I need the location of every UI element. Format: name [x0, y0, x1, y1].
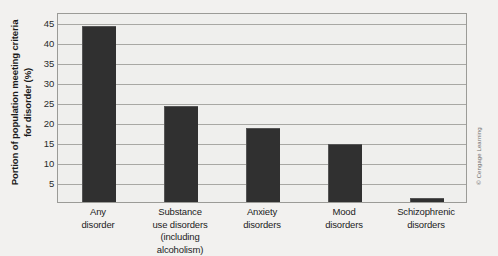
bar [246, 128, 280, 202]
y-tick-label-40: 40 [30, 38, 54, 49]
y-tick-label-5: 5 [30, 178, 54, 189]
x-tick-label-line: disorders [303, 219, 385, 232]
y-tick-label-25: 25 [30, 98, 54, 109]
x-tick-label: Mooddisorders [303, 206, 385, 231]
credit-text: © Cengage Learning [476, 127, 482, 184]
x-tick-label-line: use disorders [139, 219, 221, 232]
y-axis-title-line-1: Portion of population meeting criteria [10, 20, 23, 186]
x-tick-label-line: Mood [303, 206, 385, 219]
bar [164, 106, 198, 202]
x-tick-label-line: disorders [385, 219, 467, 232]
x-tick-label: Schizophrenicdisorders [385, 206, 467, 231]
plot-area [57, 13, 467, 203]
bar [328, 144, 362, 202]
y-axis-tick-labels: 51015202530354045 [30, 13, 54, 203]
x-axis-tick-labels: AnydisorderSubstanceuse disorders(includ… [57, 206, 467, 252]
x-tick-label-line: disorders [221, 219, 303, 232]
x-tick-label-line: disorder [57, 219, 139, 232]
x-tick-label-line: Schizophrenic [385, 206, 467, 219]
y-tick-label-15: 15 [30, 138, 54, 149]
bar [410, 198, 444, 202]
x-tick-label-line: Anxiety [221, 206, 303, 219]
y-tick-label-35: 35 [30, 58, 54, 69]
credit-notice: © Cengage Learning [472, 108, 486, 204]
y-tick-label-20: 20 [30, 118, 54, 129]
x-tick-label: Anydisorder [57, 206, 139, 231]
x-tick-label: Substanceuse disorders(including alcohol… [139, 206, 221, 256]
x-tick-label-line: (including alcoholism) [139, 231, 221, 256]
y-tick-label-45: 45 [30, 18, 54, 29]
x-tick-label-line: Substance [139, 206, 221, 219]
x-tick-label-line: Any [57, 206, 139, 219]
y-tick-label-30: 30 [30, 78, 54, 89]
x-tick-label: Anxietydisorders [221, 206, 303, 231]
bars-group [58, 14, 466, 202]
bar [82, 26, 116, 202]
y-tick-label-10: 10 [30, 158, 54, 169]
